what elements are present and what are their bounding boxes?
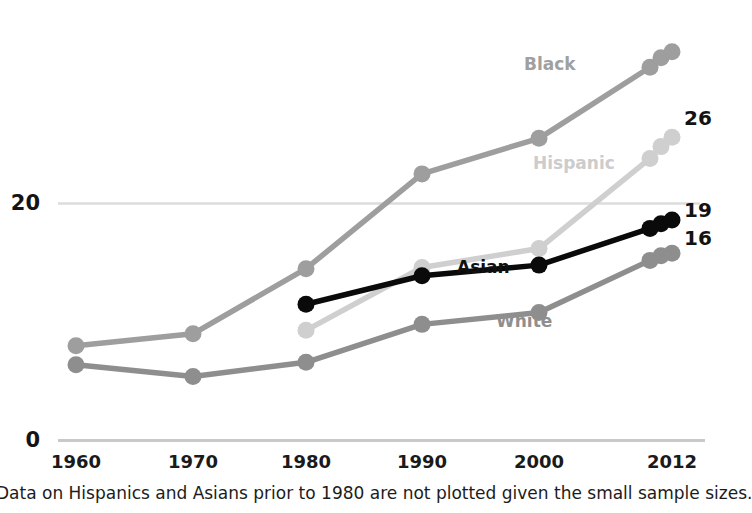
data-point-white-1990 [414,316,431,333]
data-point-asian-1990 [414,267,431,284]
data-point-white-1980 [298,354,315,371]
end-value-label-asian: 19 [684,200,712,220]
series-label-asian: Asian [457,259,510,276]
data-point-white-2012 [664,245,681,262]
y-tick-label-20: 20 [0,193,40,214]
data-point-black-1990 [414,165,431,182]
series-white [68,245,681,385]
y-tick-label-0: 0 [0,430,40,451]
x-tick-label-2000: 2000 [494,453,584,471]
series-line-hispanic [306,137,672,330]
data-point-black-1970 [185,325,202,342]
series-label-white: White [496,313,552,330]
chart-footnote: Data on Hispanics and Asians prior to 19… [0,483,721,503]
series-label-black: Black [524,56,576,73]
data-point-black-2012 [664,43,681,60]
series-layer [68,43,681,385]
data-point-asian-2000 [531,257,548,274]
end-value-label-hispanic: 26 [684,108,712,128]
x-tick-label-1970: 1970 [148,453,238,471]
series-label-hispanic: Hispanic [533,155,615,172]
x-tick-label-2012: 2012 [627,453,717,471]
data-point-white-1960 [68,356,85,373]
data-point-white-1970 [185,368,202,385]
series-line-black [76,52,672,346]
data-point-hispanic-2000 [531,240,548,257]
data-point-hispanic-2012 [664,129,681,146]
x-tick-label-1990: 1990 [377,453,467,471]
x-tick-label-1960: 1960 [31,453,121,471]
x-tick-label-1980: 1980 [261,453,351,471]
data-point-asian-1980 [298,296,315,313]
series-black [68,43,681,354]
data-point-black-1980 [298,260,315,277]
end-value-label-white: 16 [684,228,712,248]
series-hispanic [298,129,681,339]
series-line-white [76,253,672,376]
data-point-black-1960 [68,337,85,354]
data-point-black-2000 [531,130,548,147]
data-point-hispanic-1980 [298,322,315,339]
data-point-asian-2012 [664,212,681,229]
